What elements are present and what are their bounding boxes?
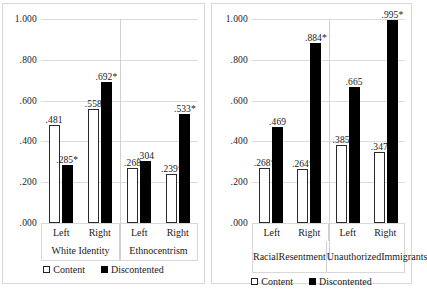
ytick-label-200: .200 bbox=[20, 177, 37, 187]
supergroup-unauthorized-immigrants: .385 .665 .347 .995* bbox=[329, 19, 406, 223]
legend-label-discontented: Discontented bbox=[319, 276, 372, 287]
subgroup-unauthorized-immigrants-right: .347 .995* bbox=[367, 19, 405, 223]
bar-discontented-racial-resentment-right[interactable]: .884* bbox=[310, 43, 321, 223]
axis-group-label-ethnocentrism: Ethnocentrism bbox=[119, 241, 197, 260]
ytick-label-1000: 1.000 bbox=[226, 14, 248, 24]
axis-label-left: Left bbox=[253, 224, 291, 241]
axis-group-label-line2: Resentment bbox=[279, 251, 326, 263]
legend-entry-content: Content bbox=[43, 264, 85, 275]
bar-content-white-identity-left[interactable]: .481 bbox=[49, 125, 60, 223]
subgroup-ethnocentrism-left: .268 .304 bbox=[120, 19, 159, 223]
bar-value-label: .304 bbox=[137, 151, 154, 161]
axis-group-label-white-identity: White Identity bbox=[42, 241, 119, 260]
bar-content-unauthorized-immigrants-right[interactable]: .347 bbox=[374, 152, 385, 223]
axis-group-label-racial-resentment: Racial Resentment bbox=[253, 241, 326, 272]
axis-row-subgroups-right: Left Right Left Right bbox=[252, 223, 405, 241]
ytick-label-000: .000 bbox=[20, 218, 37, 228]
axis-label-right: Right bbox=[291, 224, 329, 241]
chart-panel-right: 1.000 .800 .600 .400 .200 .000 .268* .46… bbox=[211, 3, 412, 284]
axis-row-subgroups-left: Left Right Left Right bbox=[41, 223, 198, 241]
bar-content-ethnocentrism-right[interactable]: .239* bbox=[166, 174, 177, 223]
legend-right: Content Discontented bbox=[212, 276, 411, 287]
axis-group-label-line1: Racial bbox=[253, 251, 279, 263]
ytick-label-800: .800 bbox=[20, 55, 37, 65]
bar-discontented-unauthorized-immigrants-left[interactable]: .665 bbox=[349, 87, 360, 223]
ytick-label-800: .800 bbox=[231, 55, 248, 65]
supergroup-racial-resentment: .268* .469 .264* .884* bbox=[252, 19, 329, 223]
bar-content-racial-resentment-right[interactable]: .264* bbox=[297, 169, 308, 223]
legend-entry-content: Content bbox=[251, 276, 293, 287]
subgroup-unauthorized-immigrants-left: .385 .665 bbox=[329, 19, 367, 223]
subgroup-racial-resentment-right: .264* .884* bbox=[290, 19, 328, 223]
axis-supercell-racial-resentment: Left Right bbox=[253, 224, 328, 241]
bar-content-unauthorized-immigrants-left[interactable]: .385 bbox=[336, 145, 347, 224]
bar-value-label: .692* bbox=[95, 72, 117, 82]
plot-area-right: 1.000 .800 .600 .400 .200 .000 .268* .46… bbox=[252, 19, 405, 223]
legend-label-content: Content bbox=[261, 276, 293, 287]
legend-left: Content Discontented bbox=[3, 264, 204, 275]
ytick-label-400: .400 bbox=[20, 136, 37, 146]
bar-discontented-ethnocentrism-left[interactable]: .304 bbox=[140, 161, 151, 223]
subgroup-racial-resentment-left: .268* .469 bbox=[252, 19, 290, 223]
legend-label-discontented: Discontented bbox=[111, 264, 164, 275]
axis-label-left: Left bbox=[42, 224, 81, 241]
supergroup-ethnocentrism: .268 .304 .239* .533* bbox=[120, 19, 199, 223]
plot-area-left: 1.000 .800 .600 .400 .200 .000 .481 .285… bbox=[41, 19, 198, 223]
axis-supercell-unauthorized-immigrants: Left Right bbox=[328, 224, 404, 241]
bar-content-racial-resentment-left[interactable]: .268* bbox=[259, 168, 270, 223]
legend-entry-discontented: Discontented bbox=[101, 264, 164, 275]
legend-swatch-content-icon bbox=[251, 278, 258, 285]
bar-value-label: .665 bbox=[346, 77, 363, 87]
legend-entry-discontented: Discontented bbox=[309, 276, 372, 287]
axis-label-right: Right bbox=[81, 224, 120, 241]
axis-group-label-line1: Unauthorized bbox=[327, 251, 381, 263]
axis-supercell-ethnocentrism: Left Right bbox=[119, 224, 197, 241]
axis-label-right: Right bbox=[367, 224, 405, 241]
bar-discontented-racial-resentment-left[interactable]: .469 bbox=[272, 127, 283, 223]
legend-swatch-discontented-icon bbox=[101, 266, 108, 273]
bar-discontented-unauthorized-immigrants-right[interactable]: .995* bbox=[387, 20, 398, 223]
bar-content-white-identity-right[interactable]: .558 bbox=[88, 109, 99, 223]
ytick-label-200: .200 bbox=[231, 177, 248, 187]
subgroup-white-identity-left: .481 .285* bbox=[41, 19, 80, 223]
bar-discontented-white-identity-left[interactable]: .285* bbox=[62, 165, 73, 223]
bar-value-label: .469 bbox=[269, 117, 286, 127]
bar-content-ethnocentrism-left[interactable]: .268 bbox=[127, 168, 138, 223]
supergroup-white-identity: .481 .285* .558 .692* bbox=[41, 19, 120, 223]
bar-groups-left: .481 .285* .558 .692* bbox=[41, 19, 198, 223]
ytick-label-1000: 1.000 bbox=[15, 14, 37, 24]
bar-value-label: .558 bbox=[85, 99, 102, 109]
chart-panel-left: 1.000 .800 .600 .400 .200 .000 .481 .285… bbox=[2, 3, 205, 284]
axis-row-groups-left: White Identity Ethnocentrism bbox=[41, 241, 198, 261]
subgroup-ethnocentrism-right: .239* .533* bbox=[159, 19, 198, 223]
bar-value-label: .285* bbox=[56, 155, 78, 165]
bar-value-label: .347 bbox=[371, 142, 388, 152]
bar-value-label: .385 bbox=[333, 135, 350, 145]
bar-value-label: .481 bbox=[46, 115, 63, 125]
axis-label-left: Left bbox=[120, 224, 159, 241]
ytick-label-400: .400 bbox=[231, 136, 248, 146]
ytick-label-000: .000 bbox=[231, 218, 248, 228]
bar-value-label: .533* bbox=[174, 104, 196, 114]
axis-row-groups-right: Racial Resentment Unauthorized Immigrant… bbox=[252, 241, 405, 273]
axis-label-left: Left bbox=[329, 224, 367, 241]
axis-label-right: Right bbox=[159, 224, 198, 241]
axis-group-label-line2: Immigrants bbox=[381, 251, 427, 263]
ytick-label-600: .600 bbox=[20, 96, 37, 106]
ytick-label-600: .600 bbox=[231, 96, 248, 106]
legend-label-content: Content bbox=[53, 264, 85, 275]
bar-discontented-white-identity-right[interactable]: .692* bbox=[101, 82, 112, 223]
bar-value-label: .884* bbox=[305, 33, 327, 43]
legend-swatch-content-icon bbox=[43, 266, 50, 273]
axis-group-label-unauthorized-immigrants: Unauthorized Immigrants bbox=[326, 241, 427, 272]
subgroup-white-identity-right: .558 .692* bbox=[80, 19, 119, 223]
bar-discontented-ethnocentrism-right[interactable]: .533* bbox=[179, 114, 190, 223]
axis-supercell-white-identity: Left Right bbox=[42, 224, 119, 241]
bar-value-label: .995* bbox=[381, 10, 403, 20]
legend-swatch-discontented-icon bbox=[309, 278, 316, 285]
bar-groups-right: .268* .469 .264* .884* bbox=[252, 19, 405, 223]
